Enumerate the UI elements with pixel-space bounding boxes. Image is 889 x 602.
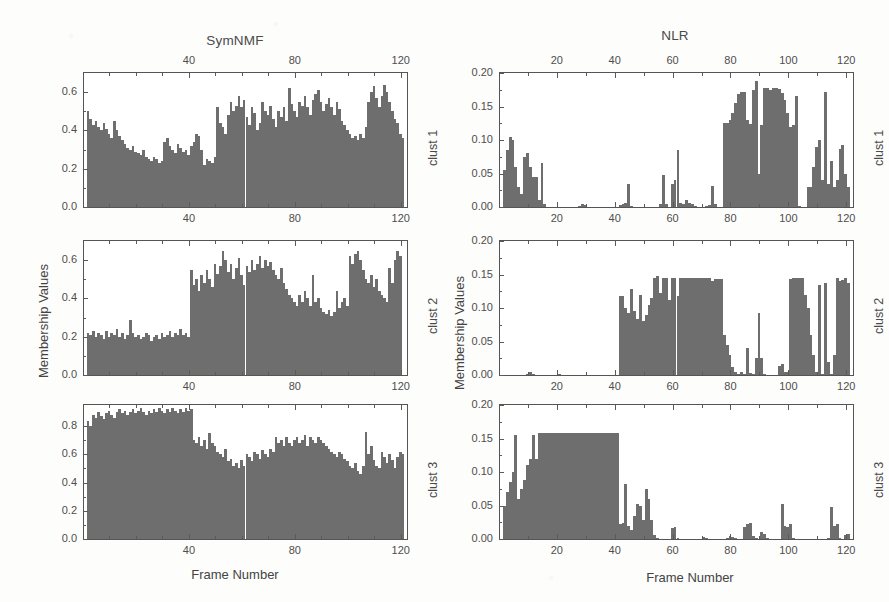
x-tick-bottom	[348, 372, 349, 375]
x-tick-top	[109, 241, 110, 244]
x-tick-label: 100	[768, 544, 808, 556]
bar	[694, 206, 697, 207]
x-tick-label-top: 100	[768, 54, 808, 66]
y-tick-label: 0.05	[451, 167, 493, 179]
x-tick-label: 60	[653, 544, 693, 556]
y-tick-label: 0.6	[35, 85, 77, 97]
x-tick-bottom	[528, 372, 529, 375]
y-minor-tick	[499, 422, 502, 423]
x-tick-label: 80	[710, 212, 750, 224]
bar	[662, 175, 665, 207]
x-tick-bottom	[730, 534, 731, 539]
y-tick-label: 0.0	[35, 532, 77, 544]
x-tick-top	[295, 405, 296, 410]
x-tick-bottom	[759, 204, 760, 207]
x-tick-top	[321, 405, 322, 408]
x-tick-label: 60	[653, 212, 693, 224]
x-tick-label-top: 80	[710, 54, 750, 66]
bar	[616, 433, 619, 539]
y-tick	[499, 405, 504, 406]
y-tick-label: 0.00	[451, 532, 493, 544]
x-tick-bottom	[788, 370, 789, 375]
x-tick-label: 40	[595, 212, 635, 224]
x-tick-bottom	[268, 372, 269, 375]
x-tick-top	[586, 73, 587, 76]
x-tick-bottom	[162, 372, 163, 375]
x-tick-label-top: 120	[381, 54, 421, 66]
x-tick-bottom	[673, 202, 674, 207]
x-tick-label-top: 60	[653, 54, 693, 66]
bar	[766, 538, 769, 539]
x-tick-label: 120	[826, 544, 866, 556]
x-tick-bottom	[401, 202, 402, 207]
x-tick-bottom	[295, 370, 296, 375]
x-tick-top	[644, 405, 645, 408]
x-tick-label: 100	[768, 380, 808, 392]
x-tick-top	[759, 73, 760, 76]
y-tick-label: 0.0	[35, 200, 77, 212]
ylabel-symnmf: Membership Values	[36, 264, 51, 378]
x-tick-top	[528, 241, 529, 244]
x-tick-bottom	[615, 370, 616, 375]
x-tick-bottom	[673, 534, 674, 539]
bar	[755, 538, 758, 539]
x-tick-top	[374, 73, 375, 76]
x-tick-top	[136, 405, 137, 408]
plot-area	[499, 240, 854, 376]
x-tick-top	[586, 405, 587, 408]
x-tick-bottom	[348, 204, 349, 207]
x-tick-bottom	[557, 534, 558, 539]
x-tick-top	[348, 241, 349, 244]
y-tick-label: 0.05	[451, 335, 493, 347]
x-tick-top	[215, 241, 216, 244]
x-tick-top	[162, 405, 163, 408]
y-tick	[83, 454, 88, 455]
x-tick-top	[557, 241, 558, 246]
x-tick-bottom	[528, 204, 529, 207]
x-tick-label: 80	[710, 544, 750, 556]
x-tick-bottom	[109, 372, 110, 375]
x-tick-top	[528, 405, 529, 408]
x-tick-top	[817, 73, 818, 76]
x-tick-bottom	[374, 536, 375, 539]
x-tick-label: 80	[275, 380, 315, 392]
x-tick-bottom	[557, 370, 558, 375]
x-tick-bottom	[109, 536, 110, 539]
x-tick-top	[109, 73, 110, 76]
bar	[763, 374, 766, 375]
bar	[818, 285, 821, 375]
x-tick-label: 80	[275, 544, 315, 556]
x-tick-bottom	[557, 202, 558, 207]
x-tick-top	[759, 405, 760, 408]
x-tick-bottom	[817, 536, 818, 539]
y-minor-tick	[83, 150, 86, 151]
y-minor-tick	[499, 325, 502, 326]
x-tick-bottom	[644, 536, 645, 539]
x-tick-top	[702, 73, 703, 76]
xlabel-symnmf: Frame Number	[165, 567, 305, 582]
x-tick-top	[759, 241, 760, 244]
bar	[847, 534, 850, 539]
x-tick-bottom	[586, 372, 587, 375]
cluster-row-label: clust 1	[426, 130, 440, 166]
y-tick	[83, 260, 88, 261]
y-tick-label: 0.00	[451, 368, 493, 380]
y-minor-tick	[83, 111, 86, 112]
bar	[760, 358, 763, 375]
x-tick-top	[242, 73, 243, 76]
plot-area	[83, 240, 408, 376]
x-tick-top	[189, 73, 190, 78]
x-tick-bottom	[242, 536, 243, 539]
x-tick-bottom	[162, 536, 163, 539]
y-minor-tick	[499, 291, 502, 292]
cluster-row-label: clust 1	[872, 130, 886, 166]
x-tick-bottom	[702, 204, 703, 207]
x-tick-top	[401, 73, 402, 78]
x-tick-bottom	[189, 370, 190, 375]
x-tick-label-top: 120	[826, 54, 866, 66]
x-tick-bottom	[242, 204, 243, 207]
x-tick-bottom	[528, 536, 529, 539]
x-tick-top	[702, 241, 703, 244]
bar	[847, 187, 850, 207]
y-tick	[83, 483, 88, 484]
